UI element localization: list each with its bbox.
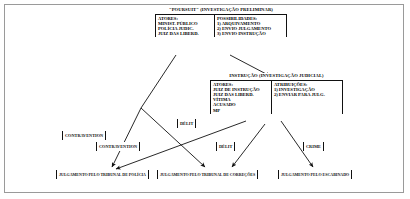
tag-julgamento-escabinado: JULGAMENTO PELO ESCABINADO <box>278 170 352 179</box>
diagram-canvas: "POURSUIT" (INVESTIGAÇÃO PRELIMINAR) ATO… <box>0 0 410 199</box>
atores-item: MP <box>213 108 269 113</box>
tag-label: JULGAMENTO PELO TRIBUNAL DE CORREÇÕES <box>158 172 257 177</box>
tag-label: CONTRAVENTION <box>97 144 139 149</box>
bracket-right <box>105 131 106 140</box>
panel-poursuit: "POURSUIT" (INVESTIGAÇÃO PRELIMINAR) ATO… <box>155 7 287 37</box>
tag-delit-2: DÉLIT <box>216 142 235 151</box>
bracket-right <box>323 142 324 151</box>
tag-label: CONTRAVENTION <box>63 133 105 138</box>
tag-contravention-2: CONTRAVENTION <box>96 142 140 151</box>
panel-poursuit-columns: ATORES: MINIST. PÚBLICO POLÍCIA JUDIC. J… <box>155 15 287 38</box>
tag-contravention-1: CONTRAVENTION <box>62 131 106 140</box>
tag-label: JULGAMENTO PELO TRIBUNAL DE POLÍCIA <box>57 172 148 177</box>
panel-instrucao: INSTRUÇÃO (INVESTIGAÇÃO JUDICIAL) ATORES… <box>210 73 343 114</box>
panel-poursuit-right-edge <box>286 15 287 38</box>
panel-poursuit-atores-column: ATORES: MINIST. PÚBLICO POLÍCIA JUDIC. J… <box>156 15 215 38</box>
bracket-right <box>234 142 235 151</box>
panel-instrucao-right-edge <box>342 81 343 114</box>
panel-instrucao-atribuicoes-column: ATRIBUIÇÕES: 1) INVESTIGAÇÃO 2) ENVIAR P… <box>272 81 342 114</box>
panel-poursuit-header: "POURSUIT" (INVESTIGAÇÃO PRELIMINAR) <box>155 7 287 15</box>
tag-label: DÉLIT <box>178 121 195 126</box>
atribuicoes-item: 2) ENVIAR PARA JULG. <box>274 92 340 97</box>
tag-label: JULGAMENTO PELO ESCABINADO <box>279 172 351 177</box>
tag-delit-1: DÉLIT <box>177 119 196 128</box>
atores-item: JUIZ DAS LIBERD. <box>158 31 212 36</box>
panel-instrucao-atores-column: ATORES: JUIZ DE INSTRUÇÃO JUIZ DAS LIBER… <box>211 81 272 114</box>
possibilidades-item: 3) ENVIO INSTRUÇÃO <box>217 31 284 36</box>
tag-julgamento-tribunal-correcoes: JULGAMENTO PELO TRIBUNAL DE CORREÇÕES <box>157 170 258 179</box>
bracket-right <box>257 170 258 179</box>
panel-instrucao-columns: ATORES: JUIZ DE INSTRUÇÃO JUIZ DAS LIBER… <box>210 81 343 114</box>
tag-julgamento-tribunal-policia: JULGAMENTO PELO TRIBUNAL DE POLÍCIA <box>56 170 149 179</box>
bracket-right <box>351 170 352 179</box>
tag-label: CRIME <box>304 144 323 149</box>
bracket-right <box>195 119 196 128</box>
tag-label: DÉLIT <box>217 144 234 149</box>
panel-poursuit-possibilidades-column: POSSIBILIDADES: 1) ARQUIVAMENTO 2) ENVIO… <box>215 15 286 38</box>
bracket-right <box>148 170 149 179</box>
tag-crime: CRIME <box>303 142 324 151</box>
bracket-right <box>139 142 140 151</box>
panel-instrucao-header: INSTRUÇÃO (INVESTIGAÇÃO JUDICIAL) <box>210 73 343 81</box>
